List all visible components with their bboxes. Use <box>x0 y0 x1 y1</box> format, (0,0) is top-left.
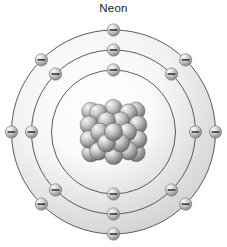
electron-minus-icon <box>168 73 176 75</box>
electron <box>179 198 191 210</box>
atomic-model-figure: Neon <box>0 0 227 247</box>
electron-minus-icon <box>182 59 190 61</box>
electron-minus-icon <box>110 69 118 71</box>
nucleus <box>80 99 147 164</box>
electron-minus-icon <box>110 233 118 235</box>
electron <box>107 208 119 220</box>
electron <box>107 44 119 56</box>
electron-minus-icon <box>168 189 176 191</box>
electron <box>35 198 47 210</box>
electron-minus-icon <box>38 59 46 61</box>
electron <box>189 126 201 138</box>
electron-minus-icon <box>8 131 16 133</box>
electron <box>107 24 119 36</box>
electron-minus-icon <box>28 131 36 133</box>
electron-minus-icon <box>52 189 60 191</box>
electron-minus-icon <box>38 203 46 205</box>
electron-minus-icon <box>192 131 200 133</box>
electron <box>35 54 47 66</box>
electron <box>5 126 17 138</box>
electron-minus-icon <box>110 213 118 215</box>
electron-minus-icon <box>110 193 118 195</box>
electron <box>165 184 177 196</box>
electron <box>49 68 61 80</box>
diagram-stage <box>0 0 227 247</box>
electron <box>209 126 221 138</box>
electron <box>107 228 119 240</box>
electron <box>165 68 177 80</box>
electron <box>49 184 61 196</box>
electron-minus-icon <box>182 203 190 205</box>
electron <box>25 126 37 138</box>
electron-minus-icon <box>212 131 220 133</box>
electron-minus-icon <box>110 29 118 31</box>
nucleon <box>105 123 123 141</box>
electron <box>107 64 119 76</box>
bohr-model-svg <box>0 0 227 247</box>
electron-minus-icon <box>110 49 118 51</box>
electron-minus-icon <box>52 73 60 75</box>
electron <box>179 54 191 66</box>
electron <box>107 188 119 200</box>
